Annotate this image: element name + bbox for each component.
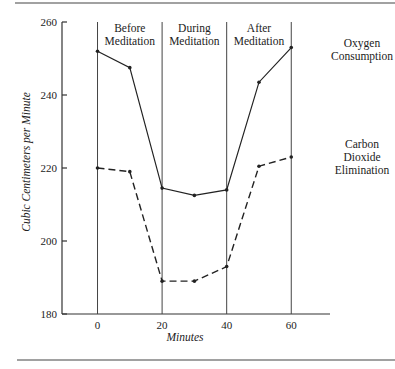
data-point (225, 188, 229, 192)
y-tick-label: 260 (41, 16, 58, 28)
phase-label-line2: Meditation (234, 35, 285, 47)
data-point (289, 155, 293, 159)
data-point (225, 265, 229, 269)
x-tick-label: 20 (157, 319, 169, 331)
phase-labels: BeforeMeditationDuringMeditationAfterMed… (105, 22, 285, 47)
series-label-line: Carbon (345, 138, 379, 150)
x-tick-label: 40 (221, 319, 233, 331)
x-tick-label: 0 (95, 319, 101, 331)
data-point (96, 166, 100, 170)
y-ticks: 180200220240260 (41, 16, 68, 320)
data-point (160, 279, 164, 283)
phase-label-line1: During (178, 22, 211, 35)
phase-label-line1: Before (114, 22, 145, 34)
series-line-oxygen (98, 48, 292, 196)
y-axis-title: Cubic Centimeters per Minute (20, 92, 33, 232)
phase-label-line2: Meditation (169, 35, 220, 47)
chart: 180200220240260 0204060 BeforeMeditation… (0, 0, 395, 369)
data-point (160, 186, 164, 190)
y-tick-label: 200 (41, 235, 58, 247)
data-point (128, 66, 132, 70)
series-label-line: Elimination (335, 164, 390, 176)
phase-label-line1: After (247, 22, 271, 34)
y-tick-label: 220 (41, 162, 58, 174)
series-labels: OxygenConsumptionCarbonDioxideEliminatio… (331, 37, 393, 176)
data-point (128, 170, 132, 174)
y-tick-label: 240 (41, 89, 58, 101)
data-point (193, 279, 197, 283)
data-point (193, 194, 197, 198)
x-tick-label: 60 (286, 319, 298, 331)
data-point (289, 46, 293, 50)
x-axis-title: Minutes (165, 331, 204, 343)
series-line-carbon-dioxide (98, 157, 292, 281)
phase-label-line2: Meditation (105, 35, 156, 47)
x-ticks: 0204060 (95, 319, 297, 331)
series-label-line: Consumption (331, 50, 393, 63)
series-group (96, 46, 293, 283)
data-point (257, 80, 261, 84)
data-point (257, 164, 261, 168)
series-label-line: Oxygen (344, 37, 381, 50)
data-point (96, 49, 100, 53)
y-tick-label: 180 (41, 308, 58, 320)
series-label-line: Dioxide (343, 151, 380, 163)
